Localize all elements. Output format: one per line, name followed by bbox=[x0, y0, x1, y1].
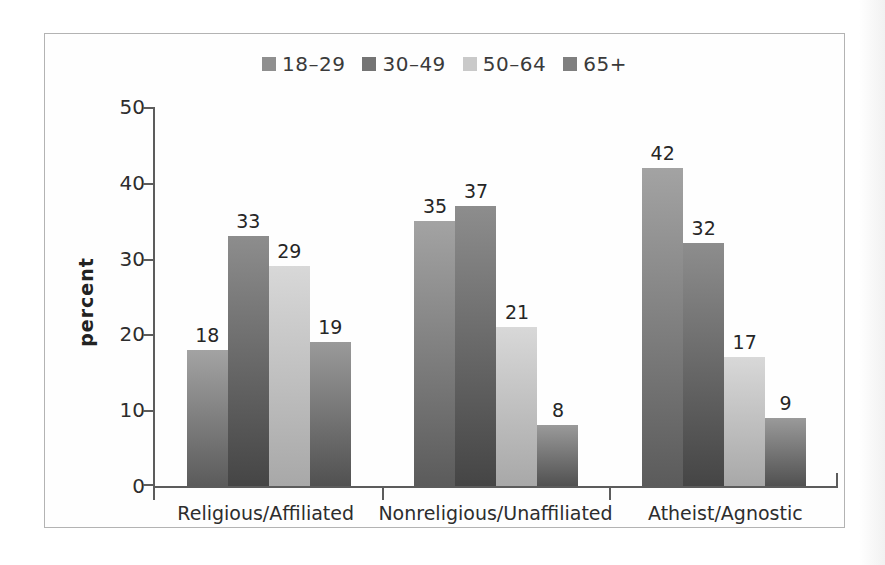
plot-area: 1833291935372184232179 bbox=[153, 107, 838, 488]
bar-slot: 21 bbox=[496, 107, 537, 486]
category-label: Nonreligious/Unaffiliated bbox=[378, 502, 612, 524]
bar-value-label: 37 bbox=[464, 182, 488, 201]
y-axis-tick bbox=[143, 410, 153, 412]
legend-series-label: 65+ bbox=[583, 52, 627, 76]
y-axis-tick bbox=[143, 334, 153, 336]
legend-series-label: 30–49 bbox=[382, 52, 445, 76]
legend: 18–2930–4950–6465+ bbox=[44, 52, 845, 76]
bar-slot: 8 bbox=[537, 107, 578, 486]
bar bbox=[642, 168, 683, 486]
y-axis-tick-label: 30 bbox=[120, 247, 145, 271]
bar-value-label: 35 bbox=[423, 197, 447, 216]
y-axis-tick bbox=[143, 484, 153, 486]
bar-value-label: 32 bbox=[692, 219, 716, 238]
bar-slot: 37 bbox=[455, 107, 496, 486]
bar-group: 18332919 bbox=[155, 107, 383, 486]
chart-page: 18–2930–4950–6465+ percent 01020304050 1… bbox=[0, 0, 885, 565]
y-axis-labels: 01020304050 bbox=[95, 107, 145, 488]
bar bbox=[269, 266, 310, 486]
bar-value-label: 19 bbox=[318, 318, 342, 337]
bar-value-label: 21 bbox=[505, 303, 529, 322]
bar bbox=[683, 243, 724, 486]
x-axis-tick bbox=[382, 488, 384, 500]
bar bbox=[724, 357, 765, 486]
bar-slot: 18 bbox=[187, 107, 228, 486]
legend-item: 30–49 bbox=[362, 52, 445, 76]
bar bbox=[228, 236, 269, 486]
bar bbox=[455, 206, 496, 486]
bar-slot: 17 bbox=[724, 107, 765, 486]
y-axis-tick-label: 40 bbox=[120, 171, 145, 195]
bar-value-label: 9 bbox=[780, 394, 792, 413]
bar-slot: 42 bbox=[642, 107, 683, 486]
bar bbox=[496, 327, 537, 486]
bar-slot: 35 bbox=[414, 107, 455, 486]
bar bbox=[414, 221, 455, 486]
legend-series-label: 50–64 bbox=[483, 52, 546, 76]
y-axis-tick-label: 0 bbox=[132, 474, 145, 498]
y-axis-tick bbox=[143, 183, 153, 185]
x-axis-tick bbox=[153, 488, 155, 500]
bar-slot: 29 bbox=[269, 107, 310, 486]
y-axis-title: percent bbox=[75, 257, 97, 347]
bar bbox=[187, 350, 228, 486]
x-axis-tick bbox=[609, 488, 611, 500]
y-axis-tick bbox=[143, 107, 153, 109]
scan-shadow bbox=[859, 0, 885, 565]
y-axis-tick-label: 10 bbox=[120, 398, 145, 422]
legend-item: 18–29 bbox=[262, 52, 345, 76]
legend-item: 50–64 bbox=[463, 52, 546, 76]
legend-swatch-icon bbox=[262, 57, 276, 71]
legend-item: 65+ bbox=[563, 52, 627, 76]
y-axis-tick bbox=[143, 259, 153, 261]
legend-swatch-icon bbox=[362, 57, 376, 71]
category-label: Religious/Affiliated bbox=[153, 502, 378, 524]
bar-group: 4232179 bbox=[610, 107, 838, 486]
legend-series-label: 18–29 bbox=[282, 52, 345, 76]
bar-slot: 33 bbox=[228, 107, 269, 486]
bar-value-label: 33 bbox=[236, 212, 260, 231]
legend-swatch-icon bbox=[563, 57, 577, 71]
bar-slot: 19 bbox=[310, 107, 351, 486]
bar-value-label: 18 bbox=[195, 326, 219, 345]
bar-value-label: 29 bbox=[277, 242, 301, 261]
legend-swatch-icon bbox=[463, 57, 477, 71]
y-axis-tick-label: 20 bbox=[120, 322, 145, 346]
bar-slot: 9 bbox=[765, 107, 806, 486]
bar-slot: 32 bbox=[683, 107, 724, 486]
y-axis-tick-label: 50 bbox=[120, 95, 145, 119]
bar bbox=[765, 418, 806, 486]
x-axis-end-tick bbox=[836, 473, 838, 486]
bar bbox=[537, 425, 578, 486]
bar-value-label: 42 bbox=[651, 144, 675, 163]
bar-value-label: 17 bbox=[733, 333, 757, 352]
category-label: Atheist/Agnostic bbox=[613, 502, 838, 524]
bar-group: 3537218 bbox=[383, 107, 611, 486]
bar-value-label: 8 bbox=[552, 401, 564, 420]
bar bbox=[310, 342, 351, 486]
x-axis-category-labels: Religious/AffiliatedNonreligious/Unaffil… bbox=[153, 502, 838, 524]
